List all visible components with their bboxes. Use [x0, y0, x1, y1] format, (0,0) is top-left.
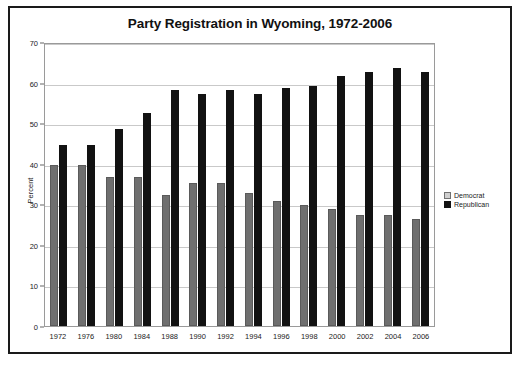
bar-republican-2000	[337, 76, 345, 326]
bar-democrat-1994	[245, 193, 253, 326]
x-tick-label: 1990	[184, 327, 212, 349]
bar-group	[184, 44, 212, 326]
legend-swatch-icon	[444, 192, 451, 199]
bar-democrat-1996	[273, 201, 281, 326]
bar-group	[73, 44, 101, 326]
x-tick-label: 2006	[407, 327, 435, 349]
bar-democrat-2004	[384, 215, 392, 326]
bar-group	[267, 44, 295, 326]
bar-republican-1992	[226, 90, 234, 326]
bar-group	[128, 44, 156, 326]
bar-democrat-1990	[189, 183, 197, 326]
x-tick-label: 1998	[295, 327, 323, 349]
x-tick-label: 1976	[72, 327, 100, 349]
bar-group	[212, 44, 240, 326]
y-tick-label: 30	[30, 201, 38, 210]
y-tick-label: 20	[30, 241, 38, 250]
bar-republican-2006	[421, 72, 429, 326]
bar-democrat-1998	[300, 205, 308, 326]
bar-republican-1980	[115, 129, 123, 326]
bar-democrat-1976	[78, 165, 86, 326]
y-tick-label: 60	[30, 79, 38, 88]
x-tick-label: 1994	[239, 327, 267, 349]
bar-democrat-1984	[134, 177, 142, 326]
legend-item-republican: Republican	[444, 201, 508, 208]
x-tick-label: 1984	[128, 327, 156, 349]
bar-democrat-1992	[217, 183, 225, 326]
bar-group	[45, 44, 73, 326]
y-tick-label: 0	[34, 323, 38, 332]
bar-republican-1972	[59, 145, 67, 326]
bar-group	[351, 44, 379, 326]
bar-republican-2002	[365, 72, 373, 326]
bar-republican-1976	[87, 145, 95, 326]
legend-item-democrat: Democrat	[444, 192, 508, 199]
x-tick-label: 2000	[323, 327, 351, 349]
bar-democrat-2006	[412, 219, 420, 326]
y-axis-ticks: 010203040506070	[10, 43, 44, 327]
y-tick-label: 10	[30, 282, 38, 291]
y-tick-label: 40	[30, 160, 38, 169]
bar-republican-1994	[254, 94, 262, 326]
bar-republican-1990	[198, 94, 206, 326]
legend-label: Republican	[454, 201, 489, 208]
chart-legend: DemocratRepublican	[444, 192, 508, 210]
bar-group	[156, 44, 184, 326]
x-tick-label: 1992	[212, 327, 240, 349]
bar-democrat-1980	[106, 177, 114, 326]
x-tick-label: 1996	[267, 327, 295, 349]
x-tick-label: 2002	[351, 327, 379, 349]
x-axis-ticks: 1972197619801984198819901992199419961998…	[44, 327, 435, 349]
bar-democrat-2002	[356, 215, 364, 326]
bar-group	[239, 44, 267, 326]
bar-democrat-1972	[50, 165, 58, 326]
legend-label: Democrat	[454, 192, 484, 199]
y-tick-label: 70	[30, 39, 38, 48]
bar-group	[323, 44, 351, 326]
bar-republican-1996	[282, 88, 290, 326]
bar-group	[406, 44, 434, 326]
bar-republican-1984	[143, 113, 151, 327]
x-tick-label: 1972	[44, 327, 72, 349]
bar-group	[101, 44, 129, 326]
legend-swatch-icon	[444, 201, 451, 208]
bar-republican-2004	[393, 68, 401, 326]
bar-democrat-1988	[162, 195, 170, 326]
bar-republican-1988	[171, 90, 179, 326]
bar-democrat-2000	[328, 209, 336, 326]
x-tick-label: 1988	[156, 327, 184, 349]
bar-groups	[45, 44, 434, 326]
plot-area	[44, 43, 435, 327]
bar-group	[378, 44, 406, 326]
x-tick-label: 2004	[379, 327, 407, 349]
y-tick-label: 50	[30, 120, 38, 129]
bar-group	[295, 44, 323, 326]
bar-republican-1998	[309, 86, 317, 326]
x-tick-label: 1980	[100, 327, 128, 349]
chart-title: Party Registration in Wyoming, 1972-2006	[10, 16, 510, 31]
chart-figure: Party Registration in Wyoming, 1972-2006…	[8, 6, 512, 354]
